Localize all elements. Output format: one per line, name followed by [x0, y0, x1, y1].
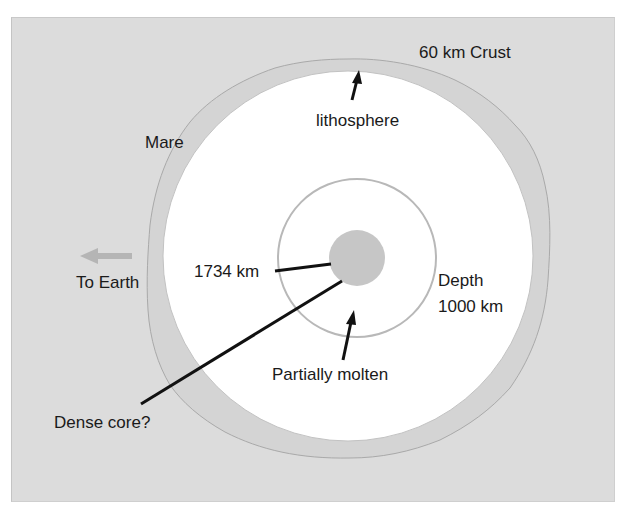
to-earth-label: To Earth	[76, 274, 139, 291]
depth-label: Depth	[438, 272, 483, 289]
dense-core-label: Dense core?	[54, 414, 150, 431]
to-earth-arrow-icon	[80, 248, 132, 264]
lithosphere-label: lithosphere	[316, 112, 399, 129]
depth-value-label: 1000 km	[438, 298, 503, 315]
core	[329, 230, 385, 286]
crust-label: 60 km Crust	[419, 44, 511, 61]
mare-label: Mare	[145, 134, 184, 151]
moon-cross-section	[0, 0, 626, 526]
partially-molten-label: Partially molten	[272, 366, 388, 383]
radius-label: 1734 km	[194, 263, 259, 280]
